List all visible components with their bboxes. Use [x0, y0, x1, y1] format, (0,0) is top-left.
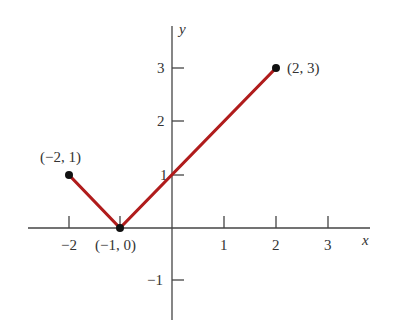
- data-point: [65, 171, 73, 179]
- y-tick-label: 2: [157, 113, 165, 129]
- x-tick-label: 1: [220, 237, 228, 253]
- coordinate-plot: −2 1 2 3 3 2 1 −1 x y (−2, 1) (−1, 0) (2…: [0, 0, 396, 334]
- point-label: (−1, 0): [95, 237, 136, 254]
- data-point: [116, 224, 124, 232]
- data-point: [272, 64, 280, 72]
- point-label: (2, 3): [287, 60, 320, 77]
- y-tick-label: 3: [157, 60, 165, 76]
- x-tick-label: 3: [324, 237, 332, 253]
- x-axis-label: x: [361, 232, 369, 248]
- x-tick-label: −2: [61, 237, 77, 253]
- point-label: (−2, 1): [40, 149, 81, 166]
- y-tick-label: −1: [147, 272, 163, 288]
- y-axis-label: y: [177, 21, 186, 37]
- x-tick-label: 2: [272, 237, 280, 253]
- x-ticks: [69, 216, 328, 228]
